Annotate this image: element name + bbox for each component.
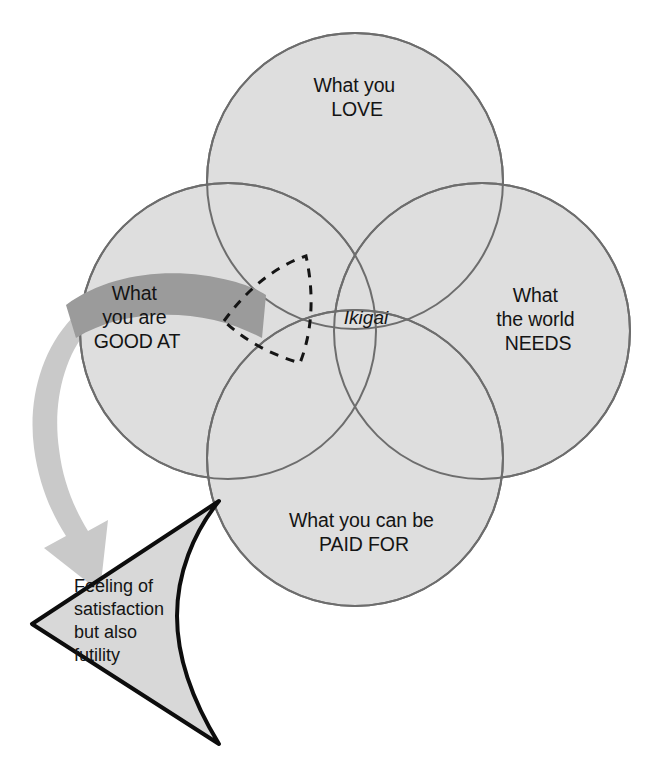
- ikigai-venn-svg: What you LOVE What you are GOOD AT What …: [0, 0, 661, 780]
- callout-line2: satisfaction: [74, 599, 164, 619]
- label-needs-line3: NEEDS: [505, 332, 572, 354]
- callout-line4: futility: [74, 645, 120, 665]
- label-love-line1: What you: [314, 74, 396, 96]
- label-paid-line2: PAID FOR: [319, 533, 409, 555]
- label-paid-line1: What you can be: [289, 509, 434, 531]
- label-needs-line2: the world: [496, 308, 574, 330]
- label-good-at-line3: GOOD AT: [94, 330, 181, 352]
- label-needs-line1: What: [513, 284, 559, 306]
- label-love-line2: LOVE: [331, 98, 383, 120]
- callout-line1: Feeling of: [74, 576, 154, 596]
- label-good-at-line2: you are: [102, 306, 166, 328]
- circle-paid-for: [207, 310, 503, 606]
- callout-line3: but also: [74, 622, 137, 642]
- label-good-at-line1: What: [112, 282, 158, 304]
- ikigai-diagram-canvas: What you LOVE What you are GOOD AT What …: [0, 0, 661, 780]
- ikigai-center-label: Ikigai: [344, 307, 389, 328]
